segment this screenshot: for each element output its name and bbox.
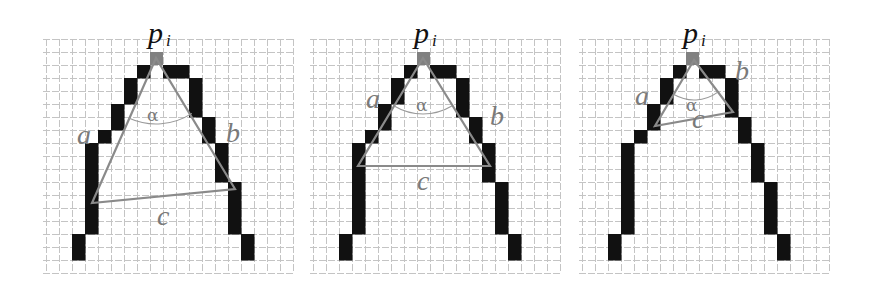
contour-pixel	[111, 104, 125, 118]
contour-pixel	[482, 169, 496, 183]
contour-pixel	[621, 143, 635, 157]
contour-pixel	[608, 247, 622, 261]
side-label-c: c	[157, 200, 170, 231]
contour-pixel	[228, 208, 242, 222]
contour-pixel	[621, 169, 635, 183]
contour-pixel	[660, 78, 674, 92]
side-label-b: b	[490, 100, 504, 131]
contour-pixel	[189, 78, 203, 92]
contour-pixel	[621, 156, 635, 170]
contour-pixel	[391, 78, 405, 92]
side-label-b: b	[735, 55, 749, 86]
contour-pixel	[228, 195, 242, 209]
contour-pixel	[764, 208, 778, 222]
contour-pixel	[352, 221, 366, 235]
point-label-p: p	[412, 16, 429, 49]
contour-pixel	[495, 195, 509, 209]
contour-pixel	[456, 78, 470, 92]
contour-pixel	[124, 78, 138, 92]
contour-pixel	[508, 234, 522, 248]
contour-pixel	[608, 234, 622, 248]
contour-pixel	[777, 247, 791, 261]
contour-pixel	[495, 221, 509, 235]
contour-pixel	[621, 182, 635, 196]
point-label-subscript-i: i	[432, 31, 437, 50]
contour-pixel	[228, 221, 242, 235]
contour-pixel	[339, 247, 353, 261]
contour-pixel	[495, 182, 509, 196]
contour-pixel	[72, 247, 86, 261]
contour-pixel	[189, 91, 203, 105]
contour-pixel	[241, 234, 255, 248]
contour-pixel	[712, 65, 726, 79]
contour-pixel	[85, 169, 99, 183]
contour-pixel	[764, 195, 778, 209]
contour-pixel	[634, 130, 648, 144]
contour-pixel	[352, 169, 366, 183]
contour-pixel	[621, 195, 635, 209]
contour-pixel	[202, 117, 216, 131]
contour-pixel	[751, 169, 765, 183]
contour-pixel	[241, 247, 255, 261]
panel-3: piabcα	[579, 16, 830, 274]
contour-pixel	[443, 65, 457, 79]
angle-label-alpha: α	[686, 95, 698, 115]
contour-pixel	[352, 143, 366, 157]
contour-pixel	[352, 182, 366, 196]
contour-pixel	[621, 221, 635, 235]
point-label-p: p	[681, 16, 698, 49]
contour-pixel	[751, 156, 765, 170]
contour-pixel	[777, 234, 791, 248]
contour-pixel	[647, 104, 661, 118]
contour-pixel	[111, 117, 125, 131]
panel-1: piabcα	[43, 16, 294, 274]
contour-pixel	[764, 221, 778, 235]
point-label-subscript-i: i	[701, 31, 706, 50]
contour-pixel	[85, 208, 99, 222]
angle-label-alpha: α	[147, 105, 159, 125]
contour-pixel	[85, 156, 99, 170]
angle-label-alpha: α	[416, 95, 428, 115]
point-label-subscript-i: i	[166, 31, 171, 50]
contour-pixel	[495, 208, 509, 222]
contour-pixel	[621, 208, 635, 222]
point-label-p: p	[146, 16, 163, 49]
figure-canvas: piabcαpiabcαpiabcα	[0, 0, 870, 285]
contour-pixel	[469, 117, 483, 131]
contour-pixel	[751, 143, 765, 157]
angle-alpha-arc	[129, 113, 192, 124]
contour-pixel	[508, 247, 522, 261]
contour-pixel	[352, 195, 366, 209]
side-label-a: a	[77, 119, 91, 150]
side-label-a: a	[635, 80, 649, 111]
contour-pixel	[456, 91, 470, 105]
side-label-c: c	[417, 165, 430, 196]
panel-2: piabcα	[310, 16, 561, 274]
contour-pixel	[352, 208, 366, 222]
contour-pixel	[339, 234, 353, 248]
contour-pixel	[764, 182, 778, 196]
side-label-a: a	[366, 83, 380, 114]
contour-pixel	[738, 130, 752, 144]
contour-pixel	[176, 65, 190, 79]
contour-pixel	[85, 221, 99, 235]
side-label-b: b	[226, 117, 240, 148]
contour-pixel	[98, 130, 112, 144]
contour-pixel	[738, 117, 752, 131]
contour-pixel	[72, 234, 86, 248]
figure-panels: piabcαpiabcαpiabcα	[43, 16, 830, 274]
